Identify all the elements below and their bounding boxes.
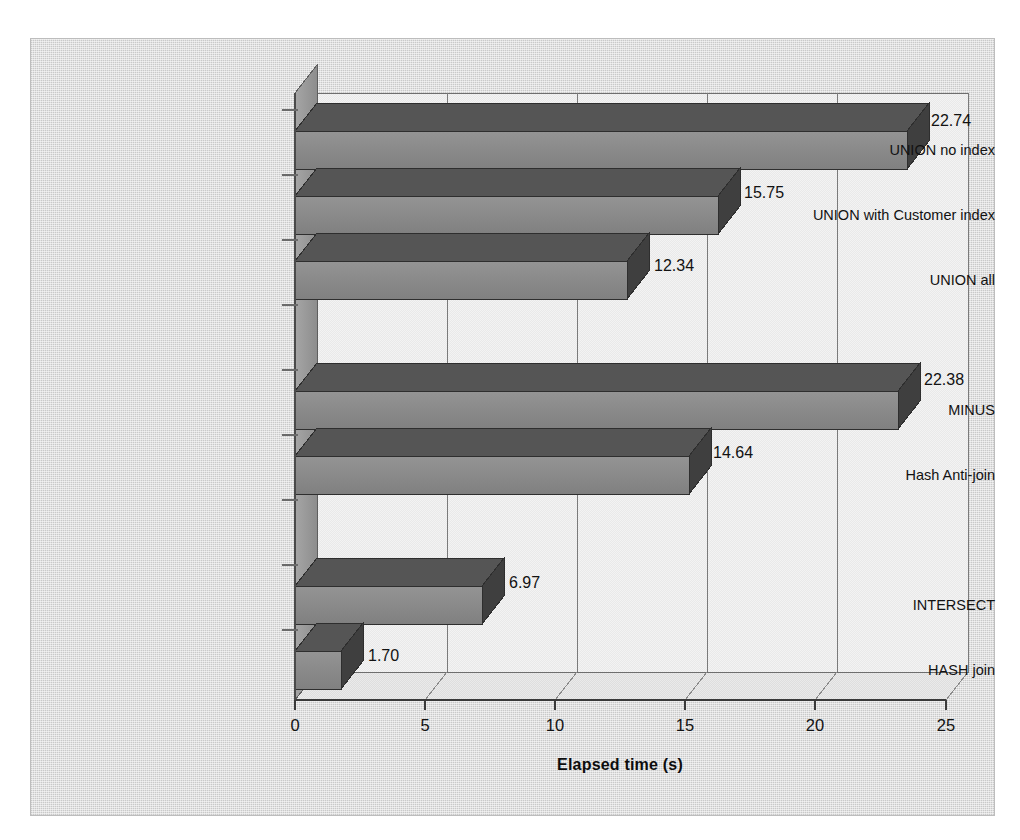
- value-label-union-all: 12.34: [654, 257, 694, 275]
- value-label-union-no-index: 22.74: [931, 112, 971, 130]
- value-label-union-with-customer-index: 15.75: [744, 184, 784, 202]
- category-label-union-no-index: UNION no index: [740, 142, 995, 158]
- category-label-minus: MINUS: [740, 402, 995, 418]
- chart-page: UNION no index UNION with Customer index…: [0, 0, 1020, 840]
- x-tick-label-5: 5: [420, 716, 429, 735]
- value-label-hash-join: 1.70: [368, 647, 399, 665]
- x-tick-label-0: 0: [290, 716, 299, 735]
- value-label-intersect: 6.97: [509, 574, 540, 592]
- category-label-union-all: UNION all: [740, 272, 995, 288]
- x-tick-label-25: 25: [937, 716, 955, 735]
- x-tick-label-15: 15: [676, 716, 694, 735]
- label-layer: UNION no index UNION with Customer index…: [30, 38, 995, 816]
- value-label-hash-anti-join: 14.64: [713, 444, 753, 462]
- category-label-hash-anti-join: Hash Anti-join: [740, 467, 995, 483]
- chart-frame: UNION no index UNION with Customer index…: [30, 38, 995, 816]
- category-label-hash-join: HASH join: [740, 662, 995, 678]
- x-axis-title: Elapsed time (s): [557, 756, 683, 774]
- category-label-intersect: INTERSECT: [740, 597, 995, 613]
- value-label-minus: 22.38: [924, 371, 964, 389]
- x-tick-label-20: 20: [806, 716, 824, 735]
- category-label-union-with-customer-index: UNION with Customer index: [740, 207, 995, 223]
- x-tick-label-10: 10: [546, 716, 564, 735]
